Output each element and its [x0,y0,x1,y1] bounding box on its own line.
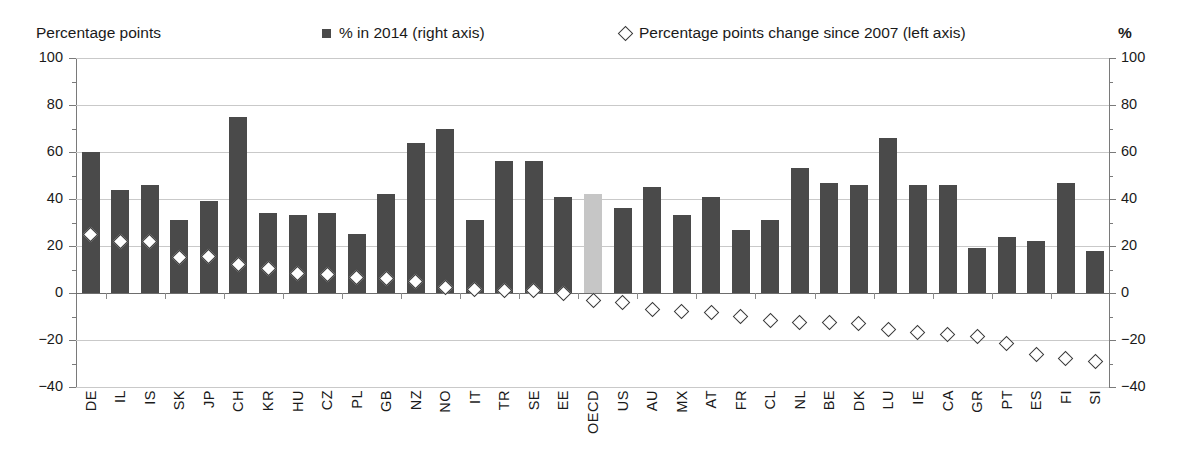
category-label-SE: SE [526,390,542,410]
bar-GR[interactable] [968,248,986,293]
bar-TR[interactable] [495,161,513,293]
category-label-EE: EE [555,390,571,410]
category-label-TR: TR [496,390,512,410]
bar-OECD[interactable] [584,194,602,293]
bar-SI[interactable] [1086,251,1104,293]
left-axis-tick-0 [69,293,76,294]
left-axis-title: Percentage points [36,24,161,42]
legend-item-bars-label: % in 2014 (right axis) [339,24,485,42]
bar-NL[interactable] [791,168,809,293]
category-label-FI: FI [1058,390,1074,404]
bar-ES[interactable] [1027,241,1045,293]
left-axis-tick-40 [69,199,76,200]
right-axis-label--20: −20 [1121,331,1146,347]
marker-OECD[interactable] [585,292,601,308]
bar-FI[interactable] [1057,183,1075,293]
bar-JP[interactable] [200,201,218,293]
right-axis-tick--20 [1109,340,1116,341]
marker-AU[interactable] [644,302,660,318]
category-label-KR: KR [260,390,276,411]
category-tick-CL [755,293,756,299]
right-axis-minor-tick--10 [1109,317,1113,318]
bar-DE[interactable] [82,152,100,293]
bar-LU[interactable] [879,138,897,293]
category-tick-CA [933,293,934,299]
bar-SE[interactable] [525,161,543,293]
left-axis-minor-tick-70 [72,129,76,130]
gridline--40 [76,387,1110,388]
bar-AT[interactable] [702,197,720,293]
marker-FR[interactable] [733,309,749,325]
left-axis-label-80: 80 [47,96,63,112]
marker-CL[interactable] [762,312,778,328]
right-axis-minor-tick-30 [1109,223,1113,224]
right-axis-label--40: −40 [1121,378,1146,394]
bar-KR[interactable] [259,213,277,293]
marker-ES[interactable] [1028,346,1044,362]
bar-DK[interactable] [850,185,868,293]
right-axis-minor-tick-50 [1109,176,1113,177]
right-axis-tick-100 [1109,58,1116,59]
left-axis-minor-tick-30 [72,223,76,224]
category-label-MX: MX [674,390,690,413]
right-axis-label-80: 80 [1121,96,1137,112]
marker-BE[interactable] [822,315,838,331]
gridline-100 [76,58,1110,59]
plot-area: −40−40−20−20002020404060608080100100 [76,58,1110,387]
marker-FI[interactable] [1058,351,1074,367]
bar-MX[interactable] [673,215,691,293]
marker-US[interactable] [615,295,631,311]
left-axis-tick-60 [69,152,76,153]
category-label-JP: JP [201,390,217,408]
marker-MX[interactable] [674,304,690,320]
right-axis-minor-tick-10 [1109,270,1113,271]
category-label-AU: AU [644,390,660,411]
category-label-GR: GR [969,390,985,413]
category-label-NL: NL [792,390,808,410]
bar-EE[interactable] [554,197,572,293]
legend-item-points-label: Percentage points change since 2007 (lef… [639,24,966,42]
chart-header: Percentage points % in 2014 (right axis)… [0,0,1187,56]
right-axis-tick--40 [1109,387,1116,388]
marker-SI[interactable] [1087,353,1103,369]
left-axis-label-20: 20 [47,237,63,253]
right-axis-tick-20 [1109,246,1116,247]
bar-BE[interactable] [820,183,838,293]
bar-FR[interactable] [732,230,750,293]
category-label-OECD: OECD [585,390,601,434]
left-axis-minor-tick--10 [72,317,76,318]
category-tick-LU [874,293,875,299]
category-label-GB: GB [378,390,394,412]
category-tick-OECD [578,293,579,299]
category-tick-SE [519,293,520,299]
bar-IE[interactable] [909,185,927,293]
marker-NL[interactable] [792,315,808,331]
category-label-PT: PT [999,390,1015,410]
category-tick-IL [106,293,107,299]
category-axis-labels: DEILISSKJPCHKRHUCZPLGBNZNOITTRSEEEOECDUS… [76,390,1110,472]
marker-PT[interactable] [999,336,1015,352]
category-tick-IT [460,293,461,299]
marker-DK[interactable] [851,316,867,332]
left-axis-label--40: −40 [38,378,63,394]
bar-US[interactable] [614,208,632,293]
bar-PT[interactable] [998,237,1016,293]
left-axis-minor-tick--30 [72,364,76,365]
bar-NZ[interactable] [407,143,425,293]
marker-LU[interactable] [881,322,897,338]
marker-AT[interactable] [703,305,719,321]
left-axis-tick-100 [69,58,76,59]
bar-CA[interactable] [939,185,957,293]
bar-CL[interactable] [761,220,779,293]
right-axis-tick-0 [1109,293,1116,294]
right-axis-label-0: 0 [1121,284,1129,300]
bar-HU[interactable] [289,215,307,293]
right-axis-label-40: 40 [1121,190,1137,206]
category-label-IE: IE [910,390,926,405]
marker-IE[interactable] [910,325,926,341]
category-label-IL: IL [112,390,128,403]
marker-GR[interactable] [969,329,985,345]
bar-NO[interactable] [436,129,454,294]
right-axis-minor-tick-70 [1109,129,1113,130]
bar-AU[interactable] [643,187,661,293]
